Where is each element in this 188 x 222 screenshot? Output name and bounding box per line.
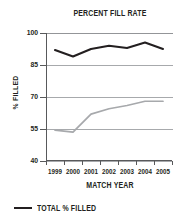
x-tick-1 [64, 161, 65, 165]
percent-fill-rate-chart: PERCENT FILL RATE % FILLED 10085705540 1… [0, 0, 188, 222]
x-axis-title: MATCH YEAR [53, 180, 168, 190]
series-lines [46, 33, 172, 161]
y-tick-label-100: 100 [13, 28, 39, 37]
x-tick-2 [82, 161, 83, 165]
x-tick-label-2005: 2005 [152, 167, 173, 176]
chart-title: PERCENT FILL RATE [53, 8, 168, 18]
y-tick-label-85: 85 [13, 60, 39, 69]
y-tick-70 [40, 97, 46, 98]
series-line-total-filled [55, 43, 163, 57]
y-tick-55 [40, 129, 46, 130]
x-tick-5 [136, 161, 137, 165]
y-tick-label-70: 70 [13, 92, 39, 101]
x-tick-4 [118, 161, 119, 165]
y-tick-label-55: 55 [13, 124, 39, 133]
chart-legend: TOTAL % FILLED [14, 203, 108, 213]
y-tick-85 [40, 65, 46, 66]
y-tick-label-40: 40 [13, 156, 39, 165]
x-tick-3 [100, 161, 101, 165]
x-tick-7 [172, 161, 173, 165]
x-tick-6 [154, 161, 155, 165]
x-tick-0 [46, 161, 47, 165]
legend-label-total-filled: TOTAL % FILLED [37, 203, 96, 213]
series-line-secondary [55, 101, 163, 132]
legend-swatch-total-filled [14, 207, 32, 209]
y-tick-100 [40, 33, 46, 34]
